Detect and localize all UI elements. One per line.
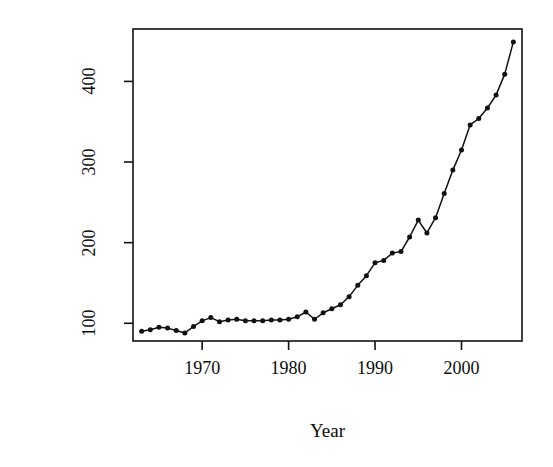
- data-point-marker: [347, 294, 352, 299]
- data-point-marker: [381, 258, 386, 263]
- data-point-marker: [286, 317, 291, 322]
- data-point-marker: [148, 327, 153, 332]
- series-line: [142, 42, 514, 333]
- data-point-marker: [364, 273, 369, 278]
- data-point-marker: [494, 93, 499, 98]
- data-point-marker: [234, 317, 239, 322]
- data-point-marker: [476, 116, 481, 121]
- data-point-marker: [191, 324, 196, 329]
- data-point-marker: [407, 235, 412, 240]
- data-point-marker: [321, 310, 326, 315]
- data-point-marker: [338, 302, 343, 307]
- data-point-marker: [459, 147, 464, 152]
- data-point-marker: [502, 72, 507, 77]
- plot-box: [133, 29, 522, 341]
- data-point-marker: [165, 326, 170, 331]
- data-point-marker: [442, 191, 447, 196]
- data-point-marker: [139, 329, 144, 334]
- patents-line-chart: Patents (thousands) Year 100200300400 19…: [0, 0, 553, 467]
- data-point-marker: [373, 260, 378, 265]
- data-point-marker: [303, 309, 308, 314]
- data-point-marker: [329, 306, 334, 311]
- data-series-group: [139, 39, 516, 335]
- data-point-marker: [226, 318, 231, 323]
- axes-group: [124, 29, 522, 350]
- data-point-marker: [182, 330, 187, 335]
- data-point-marker: [312, 317, 317, 322]
- data-point-marker: [252, 318, 257, 323]
- data-point-marker: [468, 122, 473, 127]
- data-point-marker: [200, 318, 205, 323]
- data-point-marker: [269, 318, 274, 323]
- data-point-marker: [450, 168, 455, 173]
- data-point-marker: [208, 315, 213, 320]
- data-point-marker: [398, 249, 403, 254]
- data-point-marker: [355, 283, 360, 288]
- plot-canvas: [0, 0, 553, 467]
- data-point-marker: [174, 328, 179, 333]
- data-point-marker: [217, 319, 222, 324]
- data-point-marker: [277, 318, 282, 323]
- data-point-marker: [243, 318, 248, 323]
- data-point-marker: [424, 230, 429, 235]
- data-point-marker: [156, 325, 161, 330]
- data-point-marker: [485, 106, 490, 111]
- data-point-marker: [433, 215, 438, 220]
- data-point-marker: [416, 218, 421, 223]
- data-point-marker: [260, 318, 265, 323]
- data-point-marker: [511, 39, 516, 44]
- data-point-marker: [295, 314, 300, 319]
- data-point-marker: [390, 251, 395, 256]
